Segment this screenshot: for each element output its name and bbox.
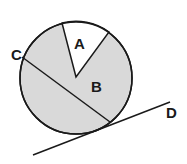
label-d: D xyxy=(166,104,177,121)
label-a: A xyxy=(74,35,85,52)
circle-diagram: A B C D xyxy=(0,0,187,164)
label-b: B xyxy=(91,78,102,95)
label-c: C xyxy=(11,46,22,63)
